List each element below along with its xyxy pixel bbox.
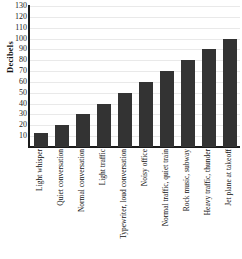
y-axis-tick-label: 120 [1,13,27,21]
x-axis-tick-label: Light whisper [36,149,44,191]
y-axis-tick-label: 60 [1,78,27,86]
y-axis-tick-label: 80 [1,56,27,64]
decibels-bar-chart: Decibels 130120110100908070605040302010 … [0,0,242,259]
bar[interactable] [34,133,48,147]
bar[interactable] [55,125,69,147]
x-axis-label-slot: Light whisper [29,149,50,257]
x-axis-tick-label: Light traffic [99,149,107,185]
x-axis-label-slot: Rock music, subway [177,149,198,257]
x-axis-label-slot: Light traffic [92,149,113,257]
y-axis-tick-label: 70 [1,67,27,75]
x-axis-label-slot: Typewriter, loud conversation [113,149,134,257]
y-axis-tick-label: 100 [1,35,27,43]
y-axis-tick-label: 20 [1,121,27,129]
x-axis-label-slot: Jet plane at takeoff [219,149,240,257]
x-axis-tick-label: Quiet conversation [57,149,65,206]
x-axis-label-slot: Noisy office [135,149,156,257]
x-axis-tick-label: Heavy traffic, thunder [204,149,212,215]
x-axis-label-slot: Quiet conversation [50,149,71,257]
x-axis-tick-label: Normal traffic, quiet train [162,149,170,226]
y-axis-tick-label: 130 [1,2,27,10]
y-axis-tick-label: 30 [1,110,27,118]
bar[interactable] [76,114,90,147]
x-axis-tick-label: Typewriter, loud conversation [120,149,128,239]
bar[interactable] [160,71,174,147]
x-axis-tick-label: Jet plane at takeoff [225,149,233,206]
bar[interactable] [181,60,195,147]
bar[interactable] [223,39,237,147]
x-axis-tick-label: Rock music, subway [183,149,191,211]
y-axis-tick-labels: 130120110100908070605040302010 [0,0,27,160]
x-axis-tick-label: Noisy office [141,149,149,186]
bar[interactable] [202,49,216,147]
x-axis-label-slot: Normal traffic, quiet train [156,149,177,257]
x-axis-label-slot: Heavy traffic, thunder [198,149,219,257]
y-axis-tick-label: 50 [1,89,27,97]
bars-layer [29,6,240,147]
y-axis-tick-label: 40 [1,100,27,108]
bar[interactable] [118,93,132,147]
y-axis-tick-label: 110 [1,24,27,32]
x-axis-tick-label: Normal conversation [78,149,86,212]
bar[interactable] [139,82,153,147]
x-axis-label-slot: Normal conversation [71,149,92,257]
y-axis-tick-label: 10 [1,132,27,140]
x-axis-category-labels: Light whisperQuiet conversationNormal co… [29,149,240,259]
y-axis-tick-label: 90 [1,45,27,53]
bar[interactable] [97,104,111,147]
